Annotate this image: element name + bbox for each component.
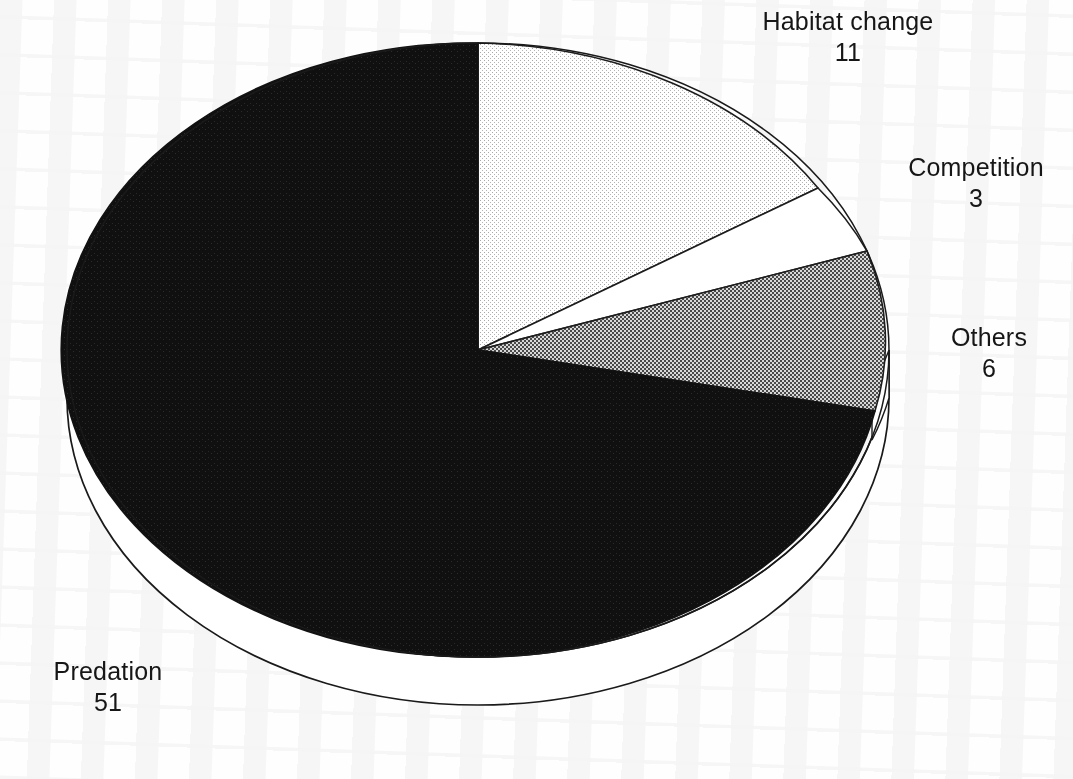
pie-label-habitat-change-value: 11 xyxy=(714,37,982,68)
pie-label-predation-value: 51 xyxy=(2,687,214,718)
pie-label-others-name: Others xyxy=(905,322,1073,353)
pie-label-others-value: 6 xyxy=(905,353,1073,384)
pie-label-predation: Predation 51 xyxy=(2,656,214,718)
pie-label-predation-name: Predation xyxy=(2,656,214,687)
pie-label-competition-value: 3 xyxy=(880,183,1072,214)
pie-label-competition: Competition 3 xyxy=(880,152,1072,214)
pie-label-habitat-change-name: Habitat change xyxy=(714,6,982,37)
pie-label-habitat-change: Habitat change 11 xyxy=(714,6,982,68)
pie-chart-figure: Habitat change 11 Competition 3 Others 6… xyxy=(0,0,1073,779)
pie-label-others: Others 6 xyxy=(905,322,1073,384)
pie-label-competition-name: Competition xyxy=(880,152,1072,183)
